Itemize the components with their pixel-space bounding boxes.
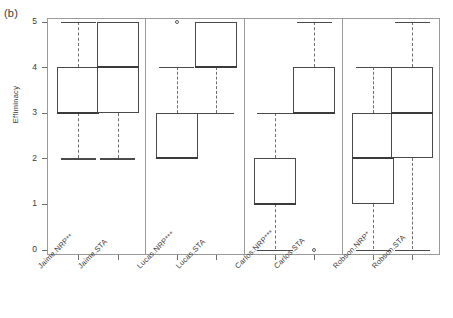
- median-line: [352, 157, 394, 159]
- y-tick-label: 0: [23, 244, 37, 254]
- whisker-lower: [275, 204, 276, 250]
- y-tick-label: 3: [23, 107, 37, 117]
- outlier-point: [175, 20, 179, 24]
- box-iqr: [254, 158, 296, 204]
- panel-label: (b): [4, 7, 18, 19]
- median-line: [97, 66, 139, 68]
- whisker-cap-upper: [159, 67, 194, 68]
- whisker-lower: [78, 113, 79, 159]
- box-iqr: [195, 22, 237, 68]
- whisker-cap-upper: [395, 22, 430, 23]
- panel-divider: [244, 18, 245, 255]
- whisker-lower: [373, 204, 374, 250]
- median-line: [195, 66, 237, 68]
- whisker-cap-lower: [61, 158, 96, 159]
- y-axis-label: Effiminacy: [11, 60, 20, 150]
- median-line: [57, 112, 99, 114]
- y-tick-label: 5: [23, 16, 37, 26]
- median-line: [156, 157, 198, 159]
- whisker-upper: [78, 22, 79, 68]
- whisker-cap-upper: [257, 113, 292, 114]
- panel-divider: [342, 18, 343, 255]
- whisker-cap-upper: [356, 67, 391, 68]
- whisker-upper: [177, 67, 178, 113]
- y-tick-label: 2: [23, 153, 37, 163]
- y-tick-label: 4: [23, 62, 37, 72]
- median-line: [293, 112, 335, 114]
- whisker-lower: [118, 113, 119, 159]
- whisker-upper: [412, 22, 413, 68]
- figure-panel: (b) Effiminacy 012345 Jaime.NRP**Jaime.S…: [0, 0, 453, 318]
- whisker-cap-upper: [61, 22, 96, 23]
- whisker-cap-upper: [297, 22, 332, 23]
- box-iqr: [156, 113, 198, 159]
- median-line: [391, 112, 433, 114]
- whisker-upper: [373, 67, 374, 113]
- x-tick-mark: [118, 255, 119, 260]
- whisker-lower: [216, 67, 217, 113]
- x-tick-mark: [314, 255, 315, 260]
- box-iqr: [57, 67, 99, 113]
- y-tick-label: 1: [23, 198, 37, 208]
- x-tick-mark: [216, 255, 217, 260]
- outlier-point: [312, 248, 316, 252]
- whisker-upper: [314, 22, 315, 68]
- whisker-lower: [412, 158, 413, 249]
- x-tick-mark: [412, 255, 413, 260]
- whisker-cap-lower: [395, 250, 430, 251]
- box-iqr: [293, 67, 335, 113]
- median-line: [254, 203, 296, 205]
- whisker-cap-lower: [198, 113, 233, 114]
- whisker-upper: [275, 113, 276, 159]
- panel-divider: [145, 18, 146, 255]
- whisker-cap-lower: [100, 158, 135, 159]
